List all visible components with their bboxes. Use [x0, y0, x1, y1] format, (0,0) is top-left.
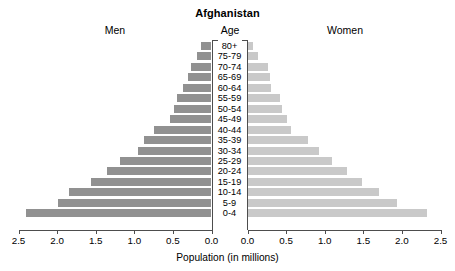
pyramid-row: 20-24: [0, 166, 455, 176]
female-bar: [248, 209, 428, 217]
male-bar: [69, 188, 212, 196]
male-bar: [91, 178, 211, 186]
pyramid-row: 5-9: [0, 198, 455, 208]
age-group-label: 60-64: [212, 83, 247, 93]
male-bar: [183, 84, 212, 92]
axis-tick-label: 1.5: [348, 235, 378, 246]
male-bar: [170, 115, 212, 123]
male-bar: [174, 105, 212, 113]
male-bar: [191, 63, 211, 71]
population-pyramid-chart: Afghanistan Men Age Women 80+75-7970-746…: [0, 0, 455, 271]
age-group-label: 5-9: [212, 198, 247, 208]
female-bar: [248, 199, 398, 207]
pyramid-row: 10-14: [0, 187, 455, 197]
age-group-label: 80+: [212, 41, 247, 51]
axis-tick: [286, 230, 287, 234]
female-bar: [248, 115, 287, 123]
axis-tick: [402, 230, 403, 234]
female-bar: [248, 94, 280, 102]
axis-tick: [363, 230, 364, 234]
pyramid-row: 55-59: [0, 93, 455, 103]
pyramid-row: 0-4: [0, 208, 455, 218]
male-bar: [26, 209, 211, 217]
female-bar: [248, 178, 362, 186]
axis-tick-label: 0.0: [233, 235, 263, 246]
axis-tick-label: 0.5: [271, 235, 301, 246]
female-bar: [248, 42, 253, 50]
age-group-label: 0-4: [212, 208, 247, 218]
male-bar: [58, 199, 212, 207]
age-group-label: 55-59: [212, 93, 247, 103]
pyramid-row: 70-74: [0, 62, 455, 72]
male-bar: [120, 157, 212, 165]
pyramid-row: 35-39: [0, 135, 455, 145]
men-header-label: Men: [60, 24, 170, 36]
pyramid-row: 30-34: [0, 146, 455, 156]
pyramid-row: 75-79: [0, 51, 455, 61]
pyramid-row: 45-49: [0, 114, 455, 124]
age-group-label: 75-79: [212, 51, 247, 61]
age-group-label: 10-14: [212, 187, 247, 197]
male-bar: [107, 167, 212, 175]
pyramid-row: 65-69: [0, 72, 455, 82]
age-group-label: 15-19: [212, 177, 247, 187]
female-bar: [248, 167, 348, 175]
female-bar: [248, 126, 291, 134]
pyramid-row: 80+: [0, 41, 455, 51]
pyramid-row: 25-29: [0, 156, 455, 166]
axis-tick: [325, 230, 326, 234]
pyramid-row: 50-54: [0, 104, 455, 114]
women-header-label: Women: [290, 24, 400, 36]
pyramid-row: 15-19: [0, 177, 455, 187]
axis-tick: [441, 230, 442, 234]
male-bar: [177, 94, 212, 102]
axis-tick-label: 1.0: [310, 235, 340, 246]
age-group-label: 50-54: [212, 104, 247, 114]
female-bar: [248, 63, 269, 71]
female-bar: [248, 84, 271, 92]
axis-line: [248, 230, 441, 231]
female-bar: [248, 147, 319, 155]
pyramid-row: 60-64: [0, 83, 455, 93]
age-group-label: 30-34: [212, 146, 247, 156]
age-group-label: 70-74: [212, 62, 247, 72]
male-bar: [201, 42, 211, 50]
female-bar: [248, 136, 309, 144]
male-bar: [197, 52, 212, 60]
age-group-label: 65-69: [212, 72, 247, 82]
female-bar: [248, 157, 333, 165]
age-group-label: 40-44: [212, 125, 247, 135]
chart-title: Afghanistan: [0, 7, 455, 19]
axis-tick-label: 2.0: [387, 235, 417, 246]
x-axis-caption: Population (in millions): [0, 252, 455, 263]
female-bar: [248, 73, 270, 81]
male-bar: [154, 126, 211, 134]
female-bar: [248, 52, 259, 60]
female-bar: [248, 105, 283, 113]
pyramid-row: 40-44: [0, 125, 455, 135]
age-group-label: 25-29: [212, 156, 247, 166]
axis-tick: [248, 230, 249, 234]
x-axis-women: 0.00.51.01.52.02.5: [0, 230, 455, 252]
male-bar: [144, 136, 211, 144]
age-group-label: 45-49: [212, 114, 247, 124]
plot-area: 80+75-7970-7465-6960-6455-5950-5445-4940…: [0, 40, 455, 230]
female-bar: [248, 188, 379, 196]
axis-tick-label: 2.5: [426, 235, 455, 246]
male-bar: [188, 73, 212, 81]
age-header-label: Age: [200, 24, 260, 36]
age-group-label: 20-24: [212, 166, 247, 176]
male-bar: [138, 147, 211, 155]
age-group-label: 35-39: [212, 135, 247, 145]
